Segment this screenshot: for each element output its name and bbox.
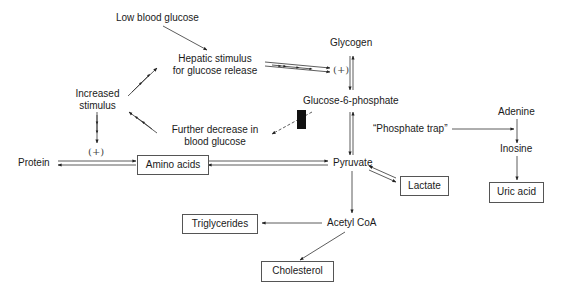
node-cholesterol: Cholesterol — [261, 261, 334, 282]
node-uric-acid: Uric acid — [489, 182, 544, 203]
node-triglycerides: Triglycerides — [182, 214, 258, 234]
node-phosphate-trap: “Phosphate trap” — [373, 123, 448, 135]
hepatic-line1: Hepatic stimulus — [165, 53, 265, 65]
node-amino-acids: Amino acids — [137, 155, 209, 175]
node-glucose-6-phosphate: Glucose-6-phosphate — [303, 95, 399, 107]
increased-line1: Increased — [70, 88, 125, 100]
node-protein: Protein — [18, 157, 50, 169]
node-inosine: Inosine — [500, 143, 532, 155]
node-further-decrease: Further decrease in blood glucose — [165, 124, 265, 148]
node-glycogen: Glycogen — [330, 37, 372, 49]
node-increased-stimulus: Increased stimulus — [70, 88, 125, 112]
node-low-blood-glucose: Low blood glucose — [116, 12, 199, 24]
stimulation-mark-protein: (+) — [88, 146, 104, 157]
pathway-arrows — [0, 0, 565, 293]
node-pyruvate: Pyruvate — [333, 157, 372, 169]
increased-line2: stimulus — [70, 100, 125, 112]
block-bar-icon — [297, 110, 306, 129]
further-line2: blood glucose — [165, 136, 265, 148]
stimulation-mark-glycogen: (+) — [333, 64, 349, 75]
further-line1: Further decrease in — [165, 124, 265, 136]
node-hepatic-stimulus: Hepatic stimulus for glucose release — [165, 53, 265, 77]
node-lactate: Lactate — [400, 176, 449, 196]
hepatic-line2: for glucose release — [165, 65, 265, 77]
node-acetyl-coa: Acetyl CoA — [327, 217, 376, 229]
node-adenine: Adenine — [498, 106, 535, 118]
